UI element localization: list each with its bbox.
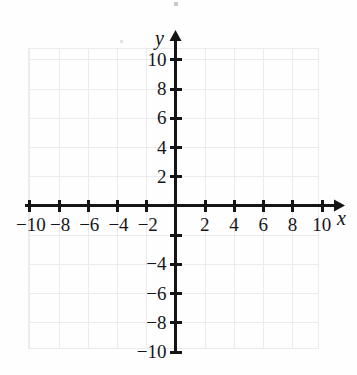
x-tick-label: 8 [288, 215, 298, 234]
x-tick-label: −6 [79, 215, 99, 234]
y-tick-label: 8 [157, 79, 167, 98]
y-tick-label: 10 [148, 50, 167, 69]
x-tick-label: −2 [138, 215, 158, 234]
y-tick-label: 4 [157, 138, 167, 157]
axes-and-ticks [0, 0, 357, 375]
x-tick-label: 10 [312, 215, 331, 234]
y-tick-label: −8 [146, 313, 166, 332]
x-tick-label: 2 [200, 215, 210, 234]
y-tick-label: −6 [146, 284, 166, 303]
y-axis-label: y [155, 28, 164, 48]
x-tick-label: 6 [258, 215, 268, 234]
y-tick-label: 2 [157, 167, 167, 186]
scan-artifact-mid [120, 40, 123, 43]
coordinate-plane-figure: −10−8−6−4−2246810108642−4−6−8−10 y x [0, 0, 357, 375]
x-axis-label: x [337, 208, 346, 228]
y-axis-arrowhead [170, 30, 182, 41]
x-tick-label: −10 [16, 215, 46, 234]
y-tick-label: −4 [146, 254, 166, 273]
x-tick-label: −8 [50, 215, 70, 234]
scan-artifact-top [174, 2, 178, 6]
y-tick-label: −10 [137, 342, 167, 361]
x-tick-label: −4 [108, 215, 128, 234]
y-tick-label: 6 [157, 108, 167, 127]
x-tick-label: 4 [229, 215, 239, 234]
